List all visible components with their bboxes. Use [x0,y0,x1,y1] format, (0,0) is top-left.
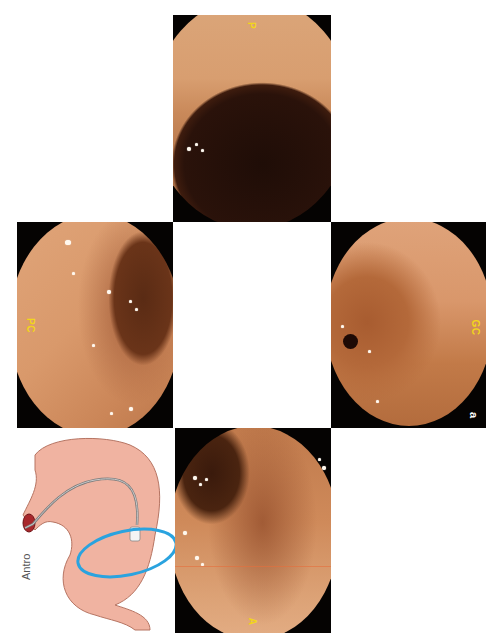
scan-line [175,566,331,567]
endoscopy-panel-lesser-curvature: PC [17,222,173,428]
endoscopy-panel-posterior: P [173,15,331,222]
endoscopic-view [17,222,173,428]
label-posterior: P [246,22,257,29]
pylorus-opening [343,334,358,349]
label-anterior: A [247,618,258,626]
label-lesser-curvature: PC [25,318,36,333]
endoscopic-view [173,15,331,222]
endoscopy-panel-greater-curvature: GC a [331,222,486,428]
endoscopy-panel-anterior: A [175,428,331,633]
stomach-diagram [15,430,175,635]
label-greater-curvature: GC [470,320,481,336]
endoscopic-view [331,222,486,426]
diagram-label-antrum: Antro [20,554,32,580]
endoscopic-view [175,428,331,633]
figure-letter: a [468,412,480,418]
